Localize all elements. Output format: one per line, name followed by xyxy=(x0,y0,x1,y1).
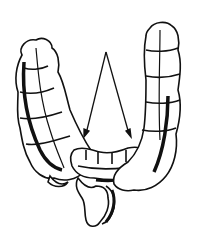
colon-drawing xyxy=(0,0,199,243)
descending-colon xyxy=(114,22,181,190)
arrow-left xyxy=(86,52,106,134)
arrow-left-head-icon xyxy=(84,129,89,137)
arrow-right xyxy=(106,52,129,134)
colon-illustration xyxy=(0,0,199,243)
arrow-right-head-icon xyxy=(126,129,131,137)
arrows xyxy=(84,52,131,137)
